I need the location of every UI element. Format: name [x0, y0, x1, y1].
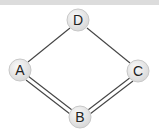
edge-a-b-double	[26, 76, 72, 114]
node-c: C	[127, 60, 149, 82]
edge-b-c-double	[88, 77, 133, 114]
node-b: B	[69, 106, 91, 128]
node-a: A	[9, 59, 31, 81]
svg-text:D: D	[73, 12, 83, 28]
svg-text:C: C	[133, 63, 143, 79]
edge-a-d	[28, 28, 70, 62]
graph-diagram: D A C B	[0, 0, 159, 134]
svg-text:B: B	[75, 109, 84, 125]
edge-d-c	[87, 28, 130, 63]
node-d: D	[67, 9, 89, 31]
svg-text:A: A	[15, 62, 25, 78]
